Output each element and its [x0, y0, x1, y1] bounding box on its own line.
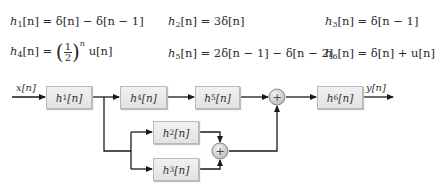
h2-to-adder-arrow: [198, 132, 220, 142]
lower-to-top-adder-arrow: [229, 106, 277, 151]
adder-top: +: [269, 89, 285, 105]
block-h2: h2[n]: [153, 121, 199, 144]
block-h3-arg: [n]: [174, 164, 189, 176]
block-h6-name: h: [327, 92, 334, 104]
input-label: x[n]: [16, 82, 36, 93]
block-h1-name: h: [56, 92, 63, 104]
plus-icon: +: [215, 145, 224, 158]
block-h3-name: h: [163, 164, 170, 176]
block-h2-name: h: [163, 127, 170, 139]
block-h1-arg: [n]: [67, 92, 82, 104]
block-h5-arg: [n]: [216, 92, 231, 104]
block-h1: h1[n]: [46, 86, 92, 109]
block-h4-arg: [n]: [142, 92, 157, 104]
block-h6: h6[n]: [317, 86, 363, 109]
block-h5: h5[n]: [195, 86, 240, 109]
block-h6-arg: [n]: [338, 92, 353, 104]
adder-bottom: +: [212, 143, 228, 159]
block-h3: h3[n]: [153, 158, 199, 181]
block-h5-name: h: [204, 92, 211, 104]
block-h4: h4[n]: [120, 86, 167, 109]
block-h2-arg: [n]: [174, 127, 189, 139]
plus-icon: +: [272, 91, 281, 104]
output-label: y[n]: [366, 82, 386, 93]
h3-to-adder-arrow: [198, 160, 220, 169]
block-h4-name: h: [130, 92, 137, 104]
